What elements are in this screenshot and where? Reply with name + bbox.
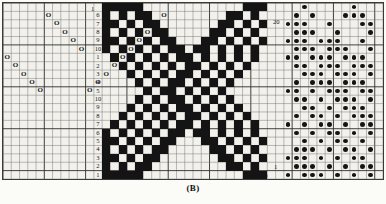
treadling-dot[interactable]: [317, 120, 325, 128]
treadling-dot[interactable]: [366, 45, 374, 53]
motif-cell[interactable]: [193, 62, 201, 70]
treadling-dot[interactable]: [309, 78, 317, 86]
motif-cell[interactable]: [201, 129, 209, 137]
threading-mark-18[interactable]: O: [143, 28, 151, 36]
motif-cell[interactable]: [102, 162, 110, 170]
motif-cell[interactable]: [176, 53, 184, 61]
motif-cell[interactable]: [102, 171, 110, 179]
motif-cell[interactable]: [119, 3, 127, 11]
treadling-dot[interactable]: [292, 28, 300, 36]
treadling-dot[interactable]: [342, 45, 350, 53]
shaft-number-4-9[interactable]: 4: [94, 78, 102, 86]
treadling-dot[interactable]: [284, 20, 292, 28]
threading-mark-1[interactable]: O: [3, 53, 11, 61]
treadling-dot[interactable]: [333, 62, 341, 70]
treadling-dot[interactable]: [350, 171, 358, 179]
motif-cell[interactable]: [176, 45, 184, 53]
motif-cell[interactable]: [218, 87, 226, 95]
motif-cell[interactable]: [226, 20, 234, 28]
shaft-number-7-2[interactable]: 7: [94, 20, 102, 28]
motif-cell[interactable]: [226, 11, 234, 19]
motif-cell[interactable]: [251, 171, 259, 179]
treadling-dot[interactable]: [342, 87, 350, 95]
motif-cell[interactable]: [160, 37, 168, 45]
motif-cell[interactable]: [226, 137, 234, 145]
motif-cell[interactable]: [234, 162, 242, 170]
treadling-dot[interactable]: [300, 137, 308, 145]
motif-cell[interactable]: [234, 129, 242, 137]
motif-cell[interactable]: [135, 28, 143, 36]
treadling-dot[interactable]: [309, 145, 317, 153]
motif-cell[interactable]: [102, 145, 110, 153]
motif-cell[interactable]: [185, 87, 193, 95]
shaft-number-10-11[interactable]: 10: [94, 95, 102, 103]
motif-cell[interactable]: [119, 28, 127, 36]
motif-cell[interactable]: [152, 129, 160, 137]
treadling-dot[interactable]: [325, 62, 333, 70]
motif-cell[interactable]: [119, 62, 127, 70]
motif-cell[interactable]: [160, 145, 168, 153]
motif-cell[interactable]: [185, 53, 193, 61]
treadling-dot[interactable]: [325, 129, 333, 137]
threading-mark-14[interactable]: O: [110, 62, 118, 70]
motif-cell[interactable]: [218, 28, 226, 36]
motif-cell[interactable]: [226, 112, 234, 120]
treadling-dot[interactable]: [300, 28, 308, 36]
treadling-dot[interactable]: [366, 171, 374, 179]
treadling-dot[interactable]: [358, 53, 366, 61]
motif-cell[interactable]: [176, 70, 184, 78]
treadling-dot[interactable]: [300, 62, 308, 70]
motif-cell[interactable]: [127, 20, 135, 28]
motif-cell[interactable]: [143, 37, 151, 45]
motif-cell[interactable]: [135, 145, 143, 153]
threading-mark-17[interactable]: O: [135, 37, 143, 45]
motif-cell[interactable]: [152, 145, 160, 153]
motif-cell[interactable]: [135, 78, 143, 86]
threading-mark-2[interactable]: O: [11, 62, 19, 70]
treadling-dot[interactable]: [325, 53, 333, 61]
treadling-dot[interactable]: [358, 37, 366, 45]
treadling-dot[interactable]: [333, 70, 341, 78]
shaft-number-4-17[interactable]: 4: [94, 145, 102, 153]
motif-cell[interactable]: [135, 3, 143, 11]
motif-cell[interactable]: [127, 137, 135, 145]
motif-cell[interactable]: [168, 45, 176, 53]
shaft-number-5-16[interactable]: 5: [94, 137, 102, 145]
shaft-number-3-18[interactable]: 3: [94, 154, 102, 162]
treadling-dot[interactable]: [350, 129, 358, 137]
treadling-dot[interactable]: [333, 137, 341, 145]
treadling-dot[interactable]: [284, 87, 292, 95]
treadling-dot[interactable]: [350, 70, 358, 78]
motif-cell[interactable]: [102, 45, 110, 53]
treadling-dot[interactable]: [309, 53, 317, 61]
motif-cell[interactable]: [226, 162, 234, 170]
treadling-dot[interactable]: [292, 95, 300, 103]
motif-cell[interactable]: [102, 3, 110, 11]
motif-cell[interactable]: [110, 20, 118, 28]
motif-cell[interactable]: [168, 78, 176, 86]
shaft-number-6-1[interactable]: 6: [94, 11, 102, 19]
motif-cell[interactable]: [210, 78, 218, 86]
treadling-dot[interactable]: [292, 37, 300, 45]
treadling-dot[interactable]: [342, 104, 350, 112]
motif-cell[interactable]: [176, 95, 184, 103]
motif-cell[interactable]: [185, 120, 193, 128]
treadling-dot[interactable]: [350, 95, 358, 103]
motif-cell[interactable]: [143, 87, 151, 95]
motif-cell[interactable]: [234, 53, 242, 61]
treadling-dot[interactable]: [333, 87, 341, 95]
treadling-dot[interactable]: [350, 3, 358, 11]
treadling-dot[interactable]: [358, 162, 366, 170]
motif-cell[interactable]: [102, 20, 110, 28]
shaft-number-8-13[interactable]: 8: [94, 112, 102, 120]
treadling-dot[interactable]: [309, 171, 317, 179]
motif-cell[interactable]: [168, 137, 176, 145]
treadling-dot[interactable]: [325, 145, 333, 153]
motif-cell[interactable]: [135, 171, 143, 179]
treadling-dot[interactable]: [317, 95, 325, 103]
motif-cell[interactable]: [185, 62, 193, 70]
motif-cell[interactable]: [210, 137, 218, 145]
shaft-number-1-20[interactable]: 1: [94, 171, 102, 179]
treadling-dot[interactable]: [284, 154, 292, 162]
treadling-dot[interactable]: [325, 162, 333, 170]
